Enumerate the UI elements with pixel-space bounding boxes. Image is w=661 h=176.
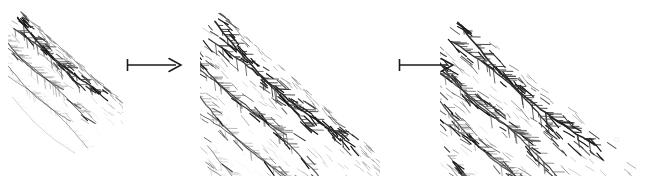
sketch-panel-stage-2 [200, 0, 380, 176]
sketch-panel-stage-1 [8, 0, 123, 176]
sketch-panel-stage-3 [440, 0, 655, 176]
figure-canvas: ○ [0, 0, 661, 176]
mapsto-arrow-icon [126, 53, 186, 77]
faint-scan-smudge: ○ [613, 133, 620, 145]
